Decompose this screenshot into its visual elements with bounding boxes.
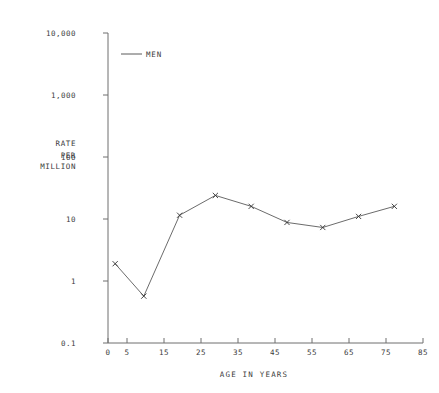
- series-line-men: [115, 195, 394, 296]
- chart-figure: RATE PER MILLION 10,000 1,000 100 10 1 0…: [0, 0, 439, 393]
- x-axis-ticks: [108, 338, 423, 343]
- y-axis-ticks: [103, 33, 108, 343]
- plot-canvas: [0, 0, 439, 393]
- series-markers-men: [113, 193, 397, 299]
